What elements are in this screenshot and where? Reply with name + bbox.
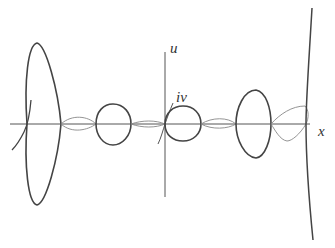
x-axis-label: x: [318, 124, 325, 139]
left-branch: [12, 100, 31, 150]
thin-lens-3: [201, 119, 236, 128]
phase-diagram: [0, 0, 335, 248]
u-axis-label: u: [170, 41, 178, 56]
iv-annotation: iv: [176, 90, 187, 105]
